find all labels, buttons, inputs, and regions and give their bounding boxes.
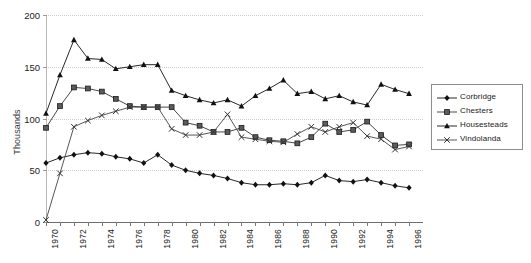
x-tick-mark [74, 222, 75, 226]
y-tick-label: 100 [24, 113, 40, 124]
x-tick-label: 1988 [301, 229, 311, 249]
x-tick-label: 1992 [357, 229, 367, 249]
x-tick-mark [297, 222, 298, 226]
line-chart: Thousands 050100150200 19701972197419761… [0, 0, 531, 263]
x-tick-label: 1990 [329, 229, 339, 249]
x-tick-label: 1980 [190, 229, 200, 249]
x-tick-mark [311, 222, 312, 226]
x-tick-mark [144, 222, 145, 226]
x-tick-label: 1976 [134, 229, 144, 249]
x-tick-mark [88, 222, 89, 226]
legend-item-chesters[interactable]: Chesters [436, 103, 517, 117]
legend-key-triangle-icon [436, 118, 458, 130]
x-tick-mark [241, 222, 242, 226]
legend-item-housesteads[interactable]: Housesteads [436, 117, 517, 131]
x-tick-mark [339, 222, 340, 226]
x-tick-mark [353, 222, 354, 226]
legend-key-cross-icon [436, 132, 458, 144]
y-tick-label: 150 [24, 61, 40, 72]
x-tick-mark [46, 222, 47, 226]
x-tick-mark [255, 222, 256, 226]
legend-label: Housesteads [458, 120, 508, 129]
x-tick-mark [381, 222, 382, 226]
x-tick-label: 1974 [106, 229, 116, 249]
series-corbridge [43, 150, 411, 191]
series-layer [46, 15, 423, 222]
x-tick-label: 1986 [273, 229, 283, 249]
y-axis-title: Thousands [12, 87, 22, 177]
legend-item-corbridge[interactable]: Corbridge [436, 89, 517, 103]
x-tick-mark [269, 222, 270, 226]
legend-item-vindolanda[interactable]: Vindolanda [436, 131, 517, 145]
x-tick-label: 1996 [413, 229, 423, 249]
x-tick-label: 1970 [50, 229, 60, 249]
x-tick-mark [395, 222, 396, 226]
legend-label: Chesters [458, 106, 493, 115]
y-tick-label: 0 [35, 217, 40, 228]
x-tick-mark [409, 222, 410, 226]
x-tick-mark [60, 222, 61, 226]
x-tick-mark [200, 222, 201, 226]
x-tick-label: 1984 [245, 229, 255, 249]
x-tick-mark [283, 222, 284, 226]
x-tick-mark [325, 222, 326, 226]
legend: CorbridgeChestersHousesteadsVindolanda [431, 84, 523, 150]
plot-area: 050100150200 197019721974197619781980198… [46, 15, 423, 222]
legend-label: Vindolanda [458, 134, 501, 143]
x-tick-mark [186, 222, 187, 226]
legend-key-square-icon [436, 104, 458, 116]
y-tick-label: 50 [29, 165, 40, 176]
x-tick-mark [172, 222, 173, 226]
series-vindolanda [43, 104, 412, 222]
x-tick-mark [158, 222, 159, 226]
x-tick-label: 1978 [162, 229, 172, 249]
x-tick-mark [102, 222, 103, 226]
x-tick-label: 1982 [218, 229, 228, 249]
x-tick-mark [130, 222, 131, 226]
y-tick-label: 200 [24, 10, 40, 21]
series-housesteads [43, 37, 412, 116]
x-tick-mark [214, 222, 215, 226]
x-tick-mark [116, 222, 117, 226]
x-tick-mark [367, 222, 368, 226]
legend-key-diamond-icon [436, 90, 458, 102]
x-tick-label: 1994 [385, 229, 395, 249]
x-tick-label: 1972 [78, 229, 88, 249]
legend-label: Corbridge [458, 92, 496, 101]
x-tick-mark [228, 222, 229, 226]
